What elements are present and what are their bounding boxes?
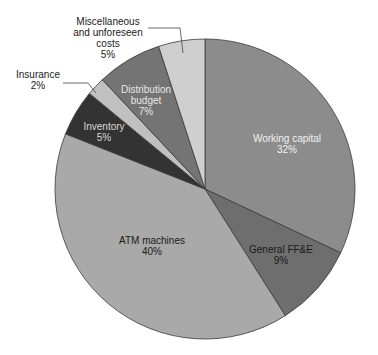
pie-slices <box>55 39 355 339</box>
slice-label: Insurance2% <box>16 69 60 91</box>
slice-label: Miscellaneousand unforeseencosts5% <box>73 16 143 60</box>
pie-chart: Working capital32%General FF&E9%ATM mach… <box>0 0 378 355</box>
